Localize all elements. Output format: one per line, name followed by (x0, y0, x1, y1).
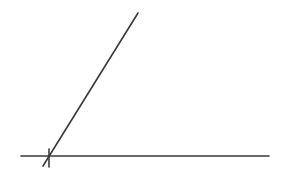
ray-line (43, 13, 138, 166)
angle-diagram (0, 0, 287, 181)
